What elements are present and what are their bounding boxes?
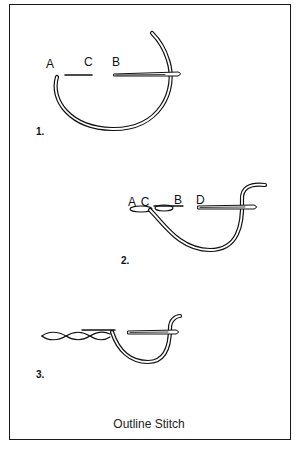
step-number-3: 3. (36, 370, 44, 380)
step-1-drawing (56, 33, 181, 129)
point-label-d: D (196, 194, 205, 206)
figure-caption: Outline Stitch (0, 417, 298, 431)
point-label-c: C (84, 56, 93, 68)
point-label-b: B (112, 56, 120, 68)
point-label-a: A (46, 58, 54, 70)
step-number-2: 2. (121, 256, 129, 266)
stitch-illustration (0, 0, 298, 449)
step-number-1: 1. (36, 127, 44, 137)
point-label-ac: A C (128, 196, 150, 208)
point-label-b: B (174, 194, 182, 206)
step-3-drawing (42, 316, 180, 362)
